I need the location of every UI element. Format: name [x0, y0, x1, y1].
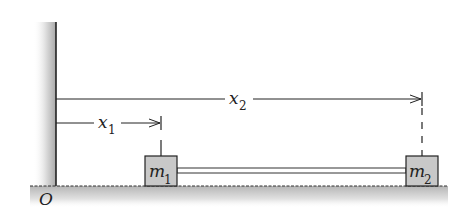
x2-subscript: 2: [239, 99, 247, 113]
wall: [33, 22, 56, 186]
distance-x2: x 2: [56, 88, 422, 156]
x1-subscript: 1: [108, 123, 116, 137]
floor: [30, 186, 448, 208]
m2-subscript: 2: [424, 173, 432, 187]
x2-label: x: [229, 88, 239, 108]
two-mass-diagram: x 2 x 1 m 1 m 2 O: [0, 0, 467, 217]
mass-block-2: m 2: [406, 156, 438, 187]
x1-label: x: [98, 112, 108, 132]
origin-label: O: [39, 189, 53, 209]
distance-x1: x 1: [56, 112, 161, 156]
mass-block-1: m 1: [145, 156, 177, 187]
connecting-rod: [177, 168, 406, 173]
m2-label: m: [409, 161, 425, 181]
m1-subscript: 1: [164, 173, 172, 187]
m1-label: m: [149, 161, 165, 181]
